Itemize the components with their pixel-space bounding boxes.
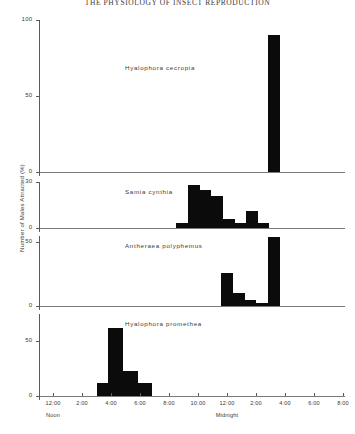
species-label: Hyalophora cecropia bbox=[125, 64, 195, 71]
x-axis-tick-label: 4:00 bbox=[97, 400, 125, 406]
x-axis-tick bbox=[111, 393, 112, 396]
histogram-bar bbox=[268, 35, 280, 172]
y-axis-line bbox=[39, 314, 40, 400]
y-axis-tick-label: 0 bbox=[0, 168, 33, 174]
histogram-bar bbox=[123, 371, 138, 396]
y-axis-tick-label: 0 bbox=[0, 224, 33, 230]
y-axis-line bbox=[39, 182, 40, 232]
x-axis-tick bbox=[227, 393, 228, 396]
species-label: Antheraea polyphemus bbox=[125, 242, 203, 249]
x-axis-tick-label: 8:00 bbox=[329, 400, 355, 406]
x-axis-tick-label: 8:00 bbox=[155, 400, 183, 406]
y-axis-tick bbox=[36, 242, 40, 243]
y-axis-tick bbox=[36, 172, 40, 173]
x-axis-tick-label: 2:00 bbox=[242, 400, 270, 406]
x-axis-baseline bbox=[39, 228, 346, 229]
y-axis-line bbox=[39, 236, 40, 310]
species-label: Samia cynthia bbox=[125, 188, 173, 195]
y-axis-tick bbox=[36, 182, 40, 183]
x-axis-tick-label: 4:00 bbox=[271, 400, 299, 406]
x-axis-tick-label: 2:00 bbox=[68, 400, 96, 406]
y-axis-tick-label: 50 bbox=[0, 92, 33, 98]
x-axis-tick-label: 6:00 bbox=[300, 400, 328, 406]
figure-title: THE PHYSIOLOGY OF INSECT REPRODUCTION bbox=[0, 0, 355, 7]
species-label: Hyalophora promethea bbox=[125, 320, 202, 327]
x-axis-day-marker: Noon bbox=[33, 412, 73, 418]
x-axis-tick bbox=[82, 393, 83, 396]
histogram-bar bbox=[244, 300, 256, 306]
figure-root: THE PHYSIOLOGY OF INSECT REPRODUCTION Nu… bbox=[0, 0, 355, 434]
histogram-bar bbox=[268, 237, 280, 306]
y-axis-tick bbox=[36, 20, 40, 21]
histogram-bar bbox=[199, 190, 211, 228]
histogram-bar bbox=[108, 328, 123, 396]
y-axis-tick-label: 30 bbox=[0, 178, 33, 184]
x-axis-baseline bbox=[39, 306, 346, 307]
histogram-bar bbox=[257, 223, 269, 228]
histogram-bar bbox=[234, 223, 246, 228]
y-axis-tick bbox=[36, 341, 40, 342]
y-axis-tick bbox=[36, 96, 40, 97]
x-axis-tick bbox=[343, 393, 344, 396]
x-axis-tick-label: 12:00 bbox=[39, 400, 67, 406]
histogram-bar bbox=[211, 196, 223, 228]
x-axis-tick bbox=[198, 393, 199, 396]
y-axis-tick bbox=[36, 228, 40, 229]
histogram-bar bbox=[256, 303, 268, 306]
x-axis-tick bbox=[169, 393, 170, 396]
histogram-bar bbox=[176, 223, 188, 228]
y-axis-tick-label: 50 bbox=[0, 337, 33, 343]
x-axis-baseline bbox=[39, 172, 346, 173]
y-axis-tick-label: 50 bbox=[0, 238, 33, 244]
y-axis-line bbox=[39, 20, 40, 176]
y-axis-tick-label: 0 bbox=[0, 392, 33, 398]
x-axis-tick bbox=[256, 393, 257, 396]
x-axis-tick bbox=[140, 393, 141, 396]
y-axis-tick-label: 100 bbox=[0, 16, 33, 22]
x-axis-day-marker: Midnight bbox=[207, 412, 247, 418]
x-axis-tick bbox=[314, 393, 315, 396]
x-axis-tick-label: 6:00 bbox=[126, 400, 154, 406]
x-axis-tick bbox=[285, 393, 286, 396]
x-axis-tick bbox=[53, 393, 54, 396]
y-axis-tick bbox=[36, 306, 40, 307]
x-axis-tick-label: 12:00 bbox=[213, 400, 241, 406]
y-axis-tick bbox=[36, 396, 40, 397]
y-axis-label: Number of Males Attracted (%) bbox=[19, 143, 25, 273]
x-axis-tick-label: 10:00 bbox=[184, 400, 212, 406]
x-axis-baseline bbox=[39, 396, 346, 397]
histogram-bar bbox=[221, 273, 233, 306]
y-axis-tick-label: 0 bbox=[0, 302, 33, 308]
